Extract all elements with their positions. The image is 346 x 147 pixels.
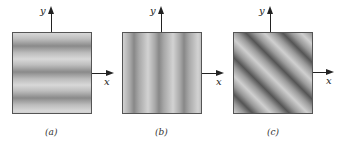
y-axis-arrow-icon <box>158 6 164 14</box>
fringe-pattern-horizontal <box>12 32 92 114</box>
panel-caption: (b) <box>155 127 168 137</box>
y-axis-arrow-icon <box>48 6 54 14</box>
y-axis-label: y <box>259 5 265 16</box>
y-axis <box>161 12 162 32</box>
panel-caption: (a) <box>45 127 57 137</box>
x-axis-label: x <box>216 76 222 87</box>
fringe-pattern-vertical <box>122 32 202 114</box>
x-axis-label: x <box>326 75 332 86</box>
panel-caption: (c) <box>267 127 279 137</box>
panel-b: y x (b) <box>110 0 225 147</box>
y-axis <box>51 12 52 32</box>
y-axis-label: y <box>150 5 156 16</box>
panel-a: y x (a) <box>0 0 115 147</box>
panel-c: y x (c) <box>222 0 337 147</box>
y-axis-label: y <box>40 5 46 16</box>
x-axis-label: x <box>104 76 110 87</box>
y-axis <box>270 12 271 32</box>
y-axis-arrow-icon <box>267 6 273 14</box>
fringe-pattern-diagonal <box>233 32 313 114</box>
